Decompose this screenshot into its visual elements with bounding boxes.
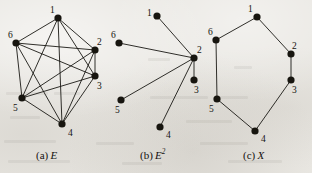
figure-three-graph-panels: 123456(a) E123456(b) E2123456(c) X [0,0,312,173]
vertex-label-6: 6 [208,28,213,38]
caption-symbol: X [257,149,264,161]
graph-vertex-4 [251,127,258,134]
graph-edge-3-4 [255,80,291,131]
graph-edge-5-6 [216,40,217,99]
graph-vertex-3 [287,76,294,83]
caption-index: (c) [243,149,257,161]
panel-c-vertices [212,13,294,134]
vertex-label-4: 4 [261,135,266,145]
graph-panels: 123456(a) E123456(b) E2123456(c) X [0,0,312,173]
vertex-label-5: 5 [209,105,214,115]
vertex-label-2: 2 [292,42,297,52]
vertex-label-1: 1 [248,5,253,15]
vertex-label-3: 3 [292,86,297,96]
panel-c: 123456(c) X [0,0,312,173]
panel-c-caption: (c) X [243,150,264,161]
graph-vertex-1 [253,13,260,20]
graph-edge-6-1 [216,17,257,40]
graph-edge-4-5 [217,99,255,131]
graph-vertex-5 [213,95,220,102]
panel-c-graph [0,0,312,173]
panel-c-edges [216,17,291,131]
graph-edge-1-2 [257,17,291,54]
graph-vertex-6 [212,36,219,43]
